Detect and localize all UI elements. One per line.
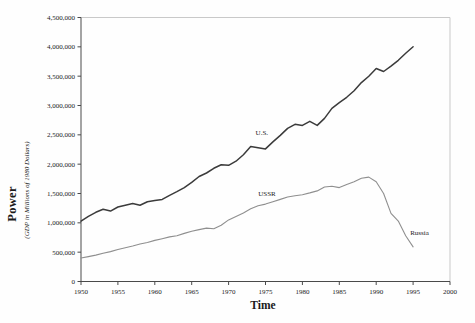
x-tick-label: 1985 — [332, 288, 347, 296]
us-line — [81, 47, 413, 221]
us-label: U.S. — [256, 129, 269, 137]
x-tick-label: 1955 — [111, 288, 126, 296]
y-tick-label: 500,000 — [52, 249, 75, 257]
x-tick-label: 1980 — [295, 288, 310, 296]
x-tick-label: 1995 — [406, 288, 421, 296]
x-axis-title: Time — [250, 299, 275, 311]
y-axis-subtitle: (GDP in Millions of 1980 Dollars) — [23, 141, 31, 239]
x-tick-label: 1970 — [222, 288, 237, 296]
russia-label: Russia — [410, 229, 430, 237]
x-tick-label: 2000 — [443, 288, 458, 296]
y-tick-label: 3,000,000 — [47, 102, 76, 110]
plot-generated-content: 0500,0001,000,0001,500,0002,000,0002,500… — [47, 14, 458, 296]
y-tick-label: 2,500,000 — [47, 131, 76, 139]
y-tick-label: 4,500,000 — [47, 14, 76, 22]
y-tick-label: 0 — [72, 278, 76, 286]
y-axis-title: Power — [5, 186, 19, 222]
ussr-russia-line — [81, 177, 413, 258]
power-vs-time-chart: Power (GDP in Millions of 1980 Dollars) … — [0, 0, 475, 323]
y-tick-label: 3,500,000 — [47, 73, 76, 81]
x-tick-label: 1965 — [185, 288, 200, 296]
y-tick-label: 4,000,000 — [47, 43, 76, 51]
y-tick-label: 2,000,000 — [47, 161, 76, 169]
gdp-power-figure: Power (GDP in Millions of 1980 Dollars) … — [0, 0, 475, 323]
y-tick-label: 1,500,000 — [47, 190, 76, 198]
y-tick-label: 1,000,000 — [47, 219, 76, 227]
ussr-label: USSR — [258, 190, 276, 198]
x-tick-label: 1960 — [148, 288, 163, 296]
x-tick-label: 1950 — [74, 288, 89, 296]
x-tick-label: 1975 — [259, 288, 274, 296]
x-tick-label: 1990 — [369, 288, 384, 296]
